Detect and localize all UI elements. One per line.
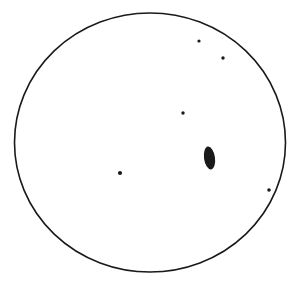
star-dot [221,56,224,59]
telescope-field-drawing [0,0,299,284]
dark-spot [202,146,216,170]
field-of-view-circle [15,13,286,272]
star-dots [118,39,271,191]
star-dot [118,171,122,175]
star-dot [181,111,184,114]
star-dot [267,188,271,192]
star-dot [197,39,200,42]
